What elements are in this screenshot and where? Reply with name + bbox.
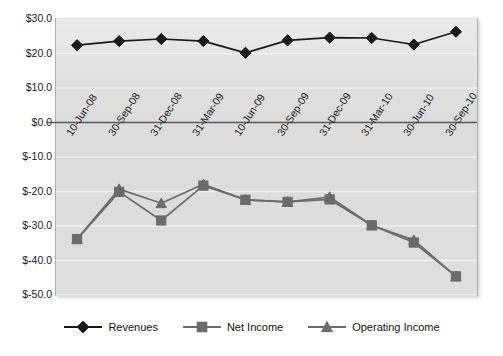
square-marker bbox=[115, 187, 124, 196]
square-marker bbox=[409, 238, 418, 247]
square-marker bbox=[182, 319, 222, 335]
diamond-marker bbox=[324, 32, 335, 43]
legend-item-operating-income[interactable]: Operating Income bbox=[307, 319, 439, 335]
square-marker bbox=[283, 197, 292, 206]
legend-item-net-income[interactable]: Net Income bbox=[182, 319, 283, 335]
square-marker bbox=[325, 195, 334, 204]
series-line bbox=[77, 32, 456, 53]
square-marker bbox=[199, 181, 208, 190]
square-marker bbox=[451, 272, 460, 281]
diamond-marker bbox=[240, 47, 251, 58]
square-marker bbox=[367, 221, 376, 230]
series-line bbox=[77, 184, 456, 276]
series-operating-income bbox=[72, 179, 461, 281]
diamond-marker bbox=[156, 33, 167, 44]
diamond-marker bbox=[408, 39, 419, 50]
diamond-marker bbox=[63, 319, 103, 335]
legend-item-revenues[interactable]: Revenues bbox=[63, 319, 158, 335]
diamond-marker bbox=[77, 321, 89, 333]
diamond-marker bbox=[282, 35, 293, 46]
diamond-marker bbox=[114, 35, 125, 46]
financial-line-chart: $30.0$20.0$10.0$0.0$-10.0$-20.0$-30.0$-4… bbox=[0, 0, 503, 356]
square-marker bbox=[197, 322, 207, 332]
square-marker bbox=[241, 195, 250, 204]
series-group bbox=[71, 26, 461, 281]
bottom-caption bbox=[14, 345, 484, 356]
gridlines-group bbox=[56, 19, 477, 295]
legend-label: Revenues bbox=[108, 321, 158, 333]
chart-canvas bbox=[0, 0, 503, 356]
square-marker bbox=[72, 235, 81, 244]
legend-label: Net Income bbox=[227, 321, 283, 333]
chart-legend: RevenuesNet IncomeOperating Income bbox=[0, 316, 503, 338]
square-marker bbox=[157, 216, 166, 225]
diamond-marker bbox=[366, 32, 377, 43]
series-line bbox=[77, 186, 456, 277]
diamond-marker bbox=[71, 40, 82, 51]
triangle-marker bbox=[307, 319, 347, 335]
diamond-marker bbox=[198, 35, 209, 46]
legend-label: Operating Income bbox=[352, 321, 439, 333]
series-net-income bbox=[72, 181, 460, 281]
diamond-marker bbox=[450, 26, 461, 37]
